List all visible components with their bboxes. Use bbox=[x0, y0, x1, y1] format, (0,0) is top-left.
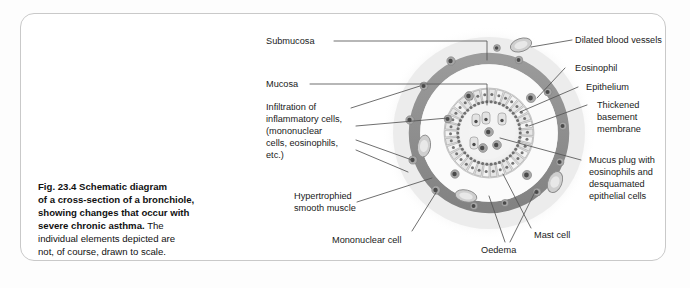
inflammatory-cell-nucleus bbox=[421, 84, 425, 88]
basement-membrane-dot bbox=[509, 109, 512, 112]
epithelial-cell-nucleus bbox=[525, 124, 528, 127]
epithelial-cell-nucleus bbox=[455, 152, 458, 155]
inflammatory-cell-nucleus bbox=[545, 90, 549, 94]
basement-membrane-dot bbox=[473, 104, 476, 107]
basement-membrane-dot bbox=[494, 162, 497, 165]
label-mucus-plug-line4: epithelial cells bbox=[589, 191, 647, 201]
inflammatory-cell-nucleus bbox=[524, 173, 529, 178]
epithelial-cell-nucleus bbox=[464, 101, 467, 104]
label-thickened-line3: membrane bbox=[597, 124, 641, 134]
figure-number: Fig. 23.4 bbox=[38, 181, 77, 192]
desquamated-cell-nucleus bbox=[474, 120, 477, 123]
label-thickened-line1: Thickened bbox=[597, 100, 639, 110]
epithelial-cell-nucleus bbox=[523, 117, 526, 120]
epithelial-cell-nucleus bbox=[478, 169, 481, 172]
epithelial-cell-nucleus bbox=[490, 93, 493, 96]
epithelial-cell-nucleus bbox=[510, 100, 513, 103]
figure-caption: Fig. 23.4 Schematic diagram of a cross-s… bbox=[38, 181, 195, 257]
basement-membrane-dot bbox=[457, 136, 460, 139]
basement-membrane-dot bbox=[459, 119, 462, 122]
epithelial-cell-nucleus bbox=[511, 162, 514, 165]
label-dilated-blood-vessels: Dilated blood vessels bbox=[575, 35, 662, 45]
basement-membrane-dot bbox=[463, 151, 466, 154]
basement-membrane-dot bbox=[481, 101, 484, 104]
epithelial-cell-nucleus bbox=[516, 157, 519, 160]
epithelial-cell-nucleus bbox=[465, 163, 468, 166]
label-epithelium: Epithelium bbox=[586, 82, 629, 92]
basement-membrane-dot bbox=[494, 101, 497, 104]
epithelial-cell-nucleus bbox=[521, 151, 524, 154]
epithelial-cell-nucleus bbox=[525, 138, 528, 141]
inflammatory-cell-nucleus bbox=[472, 204, 476, 208]
label-infiltration-line4: cells, eosinophils, bbox=[266, 138, 338, 148]
label-hypertrophied-line1: Hypertrophied bbox=[294, 191, 352, 201]
label-submucosa: Submucosa bbox=[266, 36, 315, 46]
basement-membrane-dot bbox=[490, 100, 493, 103]
caption-rest-4: The bbox=[145, 220, 164, 231]
caption-bold-1: Schematic diagram bbox=[79, 181, 167, 192]
figure-page: Submucosa Mucosa Infiltration of inflamm… bbox=[0, 0, 690, 288]
caption-line-4: severe chronic asthma. The bbox=[38, 220, 164, 231]
label-eosinophil: Eosinophil bbox=[575, 63, 617, 73]
label-mucosa: Mucosa bbox=[266, 79, 299, 89]
inflammatory-cell-nucleus bbox=[466, 94, 471, 99]
label-infiltration-line3: (mononuclear bbox=[266, 126, 322, 136]
label-infiltration-line2: inflammatory cells, bbox=[266, 114, 342, 124]
basement-membrane-dot bbox=[498, 102, 501, 105]
caption-line-2: of a cross-section of a bronchiole, bbox=[38, 194, 195, 205]
inflammatory-cell-nucleus bbox=[561, 124, 565, 128]
bronchiole-cross-section bbox=[382, 26, 596, 240]
basement-membrane-dot bbox=[505, 106, 508, 109]
epithelial-cell-nucleus bbox=[454, 112, 457, 115]
epithelial-cell-nucleus bbox=[452, 146, 455, 149]
epithelial-cell-nucleus bbox=[449, 132, 452, 135]
epithelial-cell-nucleus bbox=[515, 105, 518, 108]
inflammatory-cell-nucleus bbox=[448, 59, 452, 63]
lumen-eosinophil-nucleus bbox=[480, 146, 484, 150]
epithelial-cell-nucleus bbox=[459, 106, 462, 109]
basement-membrane-dot bbox=[463, 112, 466, 115]
basement-membrane-dot bbox=[518, 127, 521, 130]
epithelial-cell-nucleus bbox=[483, 93, 486, 96]
epithelial-cell-nucleus bbox=[499, 168, 502, 171]
caption-line-3: showing changes that occur with bbox=[38, 207, 190, 218]
basement-membrane-dot bbox=[485, 163, 488, 166]
label-infiltration-line5: etc.) bbox=[266, 150, 284, 160]
desquamated-cell-nucleus bbox=[484, 118, 487, 121]
label-mononuclear-cell: Mononuclear cell bbox=[332, 235, 401, 245]
label-mucus-plug-line2: eosinophils and bbox=[589, 167, 653, 177]
basement-membrane-dot bbox=[469, 157, 472, 160]
basement-membrane-dot bbox=[481, 162, 484, 165]
inflammatory-cell-nucleus bbox=[503, 201, 507, 205]
lumen-eosinophil-nucleus bbox=[486, 130, 490, 134]
basement-membrane-dot bbox=[517, 123, 520, 126]
caption-line-6: not, of course, drawn to scale. bbox=[38, 246, 166, 257]
basement-membrane-dot bbox=[516, 119, 519, 122]
basement-membrane-dot bbox=[457, 127, 460, 130]
inflammatory-cell-nucleus bbox=[495, 46, 499, 50]
epithelial-cell-nucleus bbox=[485, 170, 488, 173]
label-mucus-plug-line3: desquamated bbox=[589, 179, 645, 189]
epithelial-cell-nucleus bbox=[505, 166, 508, 169]
basement-membrane-dot bbox=[518, 136, 521, 139]
basement-membrane-dot bbox=[466, 109, 469, 112]
caption-line-1: Fig. 23.4 Schematic diagram bbox=[38, 181, 167, 192]
epithelial-cell-nucleus bbox=[526, 131, 529, 134]
basement-membrane-dot bbox=[512, 151, 515, 154]
epithelial-cell-nucleus bbox=[471, 166, 474, 169]
basement-membrane-dot bbox=[502, 104, 505, 107]
lumen-eosinophil-nucleus bbox=[494, 143, 498, 147]
label-mast-cell: Mast cell bbox=[534, 230, 570, 240]
basement-membrane-dot bbox=[502, 159, 505, 162]
basement-membrane-dot bbox=[473, 159, 476, 162]
basement-membrane-dot bbox=[512, 112, 515, 115]
basement-membrane-dot bbox=[457, 140, 460, 143]
desquamated-cell-nucleus bbox=[500, 119, 503, 122]
basement-membrane-dot bbox=[509, 154, 512, 157]
epithelial-cell-nucleus bbox=[504, 97, 507, 100]
basement-membrane-dot bbox=[514, 115, 517, 118]
bronchiole-diagram: Submucosa Mucosa Infiltration of inflamm… bbox=[0, 0, 690, 288]
epithelial-cell-nucleus bbox=[460, 158, 463, 161]
basement-membrane-dot bbox=[469, 106, 472, 109]
basement-membrane-dot bbox=[477, 161, 480, 164]
